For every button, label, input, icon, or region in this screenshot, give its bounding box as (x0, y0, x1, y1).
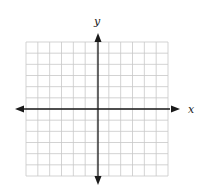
y-axis-down-arrow-icon (95, 176, 102, 185)
coordinate-plane: y x (0, 0, 202, 195)
y-axis-label: y (93, 15, 101, 28)
y-axis-up-arrow-icon (95, 33, 102, 42)
x-axis-label: x (188, 103, 195, 116)
x-axis-right-arrow-icon (171, 106, 180, 113)
x-axis-left-arrow-icon (15, 106, 24, 113)
